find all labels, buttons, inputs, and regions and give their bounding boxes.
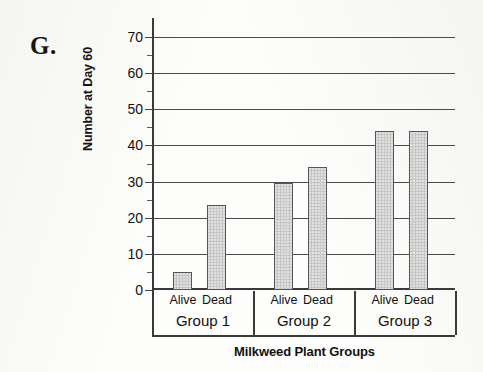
bar [207, 205, 226, 290]
y-tick-minor [147, 200, 152, 201]
category-axis-bottom-line [152, 335, 455, 337]
y-axis-title: Number at Day 60 [81, 9, 95, 189]
gridline [152, 109, 455, 110]
group-label: Group 1 [148, 312, 258, 329]
category-axis: AliveDeadGroup 1AliveDeadGroup 2AliveDea… [152, 291, 457, 337]
y-tick-major [145, 182, 152, 183]
y-tick-major [145, 109, 152, 110]
y-tick-label: 60 [127, 65, 143, 81]
figure-page: G. Number at Day 60 010203040506070 Aliv… [0, 0, 483, 372]
y-tick-label: 40 [127, 137, 143, 153]
y-tick-major [145, 254, 152, 255]
y-tick-minor [147, 91, 152, 92]
y-tick-label: 20 [127, 210, 143, 226]
bar [409, 131, 428, 290]
y-tick-label: 0 [135, 282, 143, 298]
gridline [152, 73, 455, 74]
y-tick-minor [147, 127, 152, 128]
y-tick-major [145, 145, 152, 146]
y-tick-major [145, 218, 152, 219]
figure-letter: G. [30, 32, 57, 60]
subcategory-label: Dead [194, 293, 240, 307]
y-tick-major [145, 73, 152, 74]
y-tick-major [145, 290, 152, 291]
y-tick-label: 50 [127, 101, 143, 117]
bar [308, 167, 327, 290]
bar [173, 272, 192, 290]
gridline [152, 37, 455, 38]
y-tick-minor [147, 272, 152, 273]
subcategory-label: Dead [295, 293, 341, 307]
plot-area: 010203040506070 [152, 18, 457, 290]
x-axis-title: Milkweed Plant Groups [152, 344, 457, 359]
y-tick-label: 30 [127, 174, 143, 190]
subcategory-label: Dead [396, 293, 442, 307]
group-label: Group 3 [350, 312, 460, 329]
y-tick-minor [147, 55, 152, 56]
bar [274, 183, 293, 290]
y-tick-minor [147, 236, 152, 237]
bar [375, 131, 394, 290]
y-tick-minor [147, 164, 152, 165]
y-tick-label: 70 [127, 29, 143, 45]
y-axis-line [152, 18, 154, 291]
y-tick-major [145, 37, 152, 38]
category-axis-edge [152, 291, 154, 335]
group-label: Group 2 [249, 312, 359, 329]
category-axis-edge [455, 291, 457, 335]
y-tick-label: 10 [127, 246, 143, 262]
